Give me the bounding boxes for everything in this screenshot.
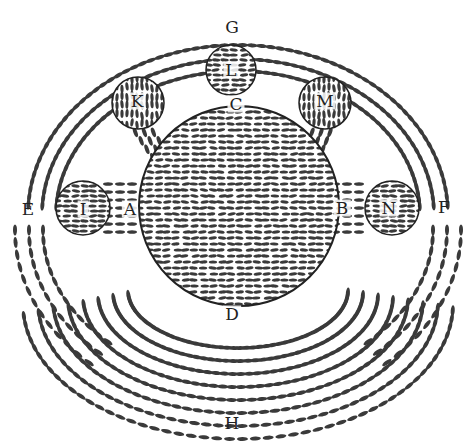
- particle: [387, 393, 398, 402]
- particle: [431, 225, 435, 236]
- particle: [115, 222, 125, 226]
- particle: [439, 258, 446, 270]
- particle: [288, 432, 300, 438]
- particle: [249, 423, 260, 428]
- particle: [147, 135, 154, 146]
- particle: [198, 435, 209, 440]
- label-e: E: [22, 201, 34, 218]
- particle: [133, 406, 145, 413]
- particle: [272, 421, 283, 426]
- particle: [236, 398, 247, 402]
- particle: [195, 395, 206, 400]
- particle: [295, 417, 307, 423]
- label-i: I: [78, 201, 89, 218]
- particle: [186, 433, 197, 438]
- particle: [138, 135, 145, 146]
- particle: [172, 49, 184, 55]
- particle: [342, 182, 352, 186]
- particle: [430, 235, 435, 246]
- particle: [185, 393, 197, 399]
- particle: [458, 237, 463, 248]
- particle: [274, 46, 286, 52]
- particle: [181, 47, 193, 53]
- particle: [181, 406, 193, 412]
- particle: [201, 422, 212, 427]
- particle: [444, 236, 449, 247]
- particle: [354, 182, 364, 186]
- particle: [301, 402, 313, 408]
- particle: [302, 51, 314, 58]
- particle: [354, 222, 364, 226]
- particle: [275, 434, 286, 439]
- particle: [443, 285, 451, 297]
- particle: [127, 182, 137, 186]
- particle: [335, 419, 347, 426]
- particle: [115, 190, 125, 194]
- label-h: H: [225, 415, 240, 432]
- particle: [44, 255, 51, 267]
- particle: [192, 408, 203, 413]
- particle: [166, 416, 178, 422]
- particle: [38, 280, 46, 292]
- particle: [256, 397, 267, 402]
- particle: [30, 297, 39, 309]
- particle: [367, 389, 379, 398]
- particle: [354, 190, 364, 194]
- particle: [176, 391, 188, 397]
- particle: [307, 414, 319, 421]
- particle: [442, 247, 448, 259]
- particle: [342, 190, 352, 194]
- particle: [103, 230, 113, 234]
- particle: [55, 285, 64, 297]
- particle: [24, 285, 32, 297]
- particle: [190, 46, 202, 52]
- particle: [203, 409, 214, 414]
- particle: [216, 397, 227, 402]
- particle: [127, 222, 137, 226]
- particle: [213, 423, 224, 428]
- particle: [342, 222, 352, 226]
- particle: [144, 410, 156, 417]
- particle: [41, 225, 45, 236]
- particle: [250, 436, 261, 441]
- diagram: G L C K M E I A B N F D H: [0, 0, 476, 447]
- particle: [280, 406, 292, 412]
- particle: [44, 319, 54, 330]
- particle: [13, 237, 18, 248]
- particle: [160, 401, 172, 408]
- particle: [321, 395, 333, 402]
- particle: [286, 392, 298, 398]
- label-a: A: [122, 201, 138, 218]
- label-n: N: [380, 200, 399, 217]
- particle: [314, 384, 326, 391]
- particle: [161, 428, 173, 434]
- particle: [354, 214, 364, 218]
- particle: [435, 269, 443, 281]
- particle: [354, 230, 364, 234]
- particle: [237, 437, 248, 441]
- particle: [246, 397, 257, 402]
- particle: [94, 403, 106, 412]
- particle: [131, 391, 143, 399]
- particle: [459, 225, 463, 236]
- particle: [173, 431, 185, 437]
- particle: [137, 421, 149, 428]
- particle: [324, 423, 336, 430]
- particle: [266, 395, 277, 400]
- particle: [150, 127, 157, 138]
- particle: [104, 408, 116, 416]
- particle: [171, 403, 183, 409]
- particle: [27, 236, 32, 247]
- particle: [247, 410, 258, 415]
- label-c: C: [227, 96, 244, 113]
- particle: [312, 426, 324, 433]
- particle: [157, 386, 169, 393]
- particle: [154, 413, 166, 420]
- label-m: M: [314, 93, 335, 110]
- particle: [47, 266, 55, 278]
- particle: [390, 313, 400, 324]
- particle: [284, 47, 296, 53]
- particle: [260, 422, 271, 427]
- particle: [269, 408, 280, 413]
- particle: [20, 273, 27, 285]
